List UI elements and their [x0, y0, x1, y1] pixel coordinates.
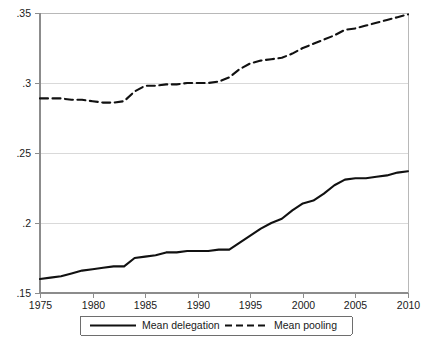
legend-label-mean-delegation: Mean delegation: [142, 319, 220, 331]
x-tick-label: 2010: [397, 299, 421, 311]
y-tick-label: .35: [16, 7, 31, 19]
x-axis-ticks: 19751980198519901995200020052010: [29, 293, 421, 311]
y-axis-ticks: .15.2.25.3.35: [16, 7, 40, 299]
legend: Mean delegation Mean pooling: [80, 316, 352, 335]
x-tick-label: 2000: [292, 299, 316, 311]
y-tick-label: .15: [16, 287, 31, 299]
figure-container: .15.2.25.3.35 19751980198519901995200020…: [0, 0, 427, 353]
x-tick-label: 1985: [134, 299, 158, 311]
x-tick-label: 1975: [29, 299, 53, 311]
line-chart: .15.2.25.3.35 19751980198519901995200020…: [0, 0, 427, 353]
y-tick-label: .25: [16, 147, 31, 159]
series-line-mean-pooling: [40, 14, 408, 102]
legend-label-mean-pooling: Mean pooling: [274, 319, 337, 331]
series-lines: [40, 14, 408, 279]
y-tick-label: .3: [22, 77, 31, 89]
x-tick-label: 1990: [187, 299, 211, 311]
series-line-mean-delegation: [40, 171, 408, 279]
x-tick-label: 1980: [82, 299, 106, 311]
x-tick-label: 2005: [344, 299, 368, 311]
x-tick-label: 1995: [239, 299, 263, 311]
gridlines: [40, 14, 408, 294]
y-tick-label: .2: [22, 217, 31, 229]
